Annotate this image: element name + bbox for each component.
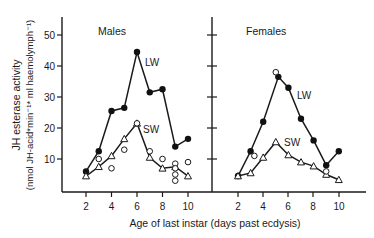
svg-text:10: 10 (44, 154, 56, 165)
svg-text:10: 10 (182, 201, 194, 212)
marker-open-circle (172, 178, 178, 184)
marker-open-circle (109, 166, 115, 172)
annotation-lw-females: LW (297, 90, 312, 101)
marker-filled-circle (185, 136, 191, 142)
svg-text:2: 2 (235, 201, 241, 212)
marker-filled-circle (134, 49, 140, 55)
marker-open-circle (121, 147, 127, 153)
marker-filled-circle (298, 116, 304, 122)
svg-text:20: 20 (44, 123, 56, 134)
marker-filled-circle (147, 89, 153, 95)
marker-open-triangle (272, 138, 279, 144)
series-line-lw (238, 77, 339, 176)
marker-filled-circle (323, 162, 329, 168)
marker-filled-circle (172, 143, 178, 149)
marker-filled-circle (96, 148, 102, 154)
marker-open-circle (147, 148, 153, 154)
marker-open-circle (323, 169, 329, 175)
annotation-lw-males: LW (145, 57, 160, 68)
svg-text:10: 10 (333, 201, 345, 212)
svg-text:40: 40 (44, 61, 56, 72)
marker-filled-circle (260, 119, 266, 125)
marker-filled-circle (108, 108, 114, 114)
svg-text:8: 8 (310, 201, 316, 212)
marker-open-circle (185, 159, 191, 165)
marker-open-circle (160, 156, 166, 162)
y-axis-label: JH esterase activity (nmol JH-acid*min⁻¹… (10, 20, 35, 190)
marker-filled-circle (285, 85, 291, 91)
marker-open-circle (252, 153, 258, 159)
panel-title-females: Females (246, 25, 286, 37)
marker-open-circle (172, 166, 178, 172)
marker-filled-circle (159, 86, 165, 92)
left-y-ticks (57, 35, 62, 159)
axes (62, 17, 366, 192)
left-y-tick-labels: 10 20 30 40 50 (44, 30, 56, 165)
svg-text:50: 50 (44, 30, 56, 41)
marker-open-circle (134, 121, 140, 127)
x-ticks (86, 192, 339, 197)
marker-filled-circle (121, 105, 127, 111)
marker-open-triangle (146, 154, 153, 160)
svg-text:4: 4 (260, 201, 266, 212)
marker-open-circle (273, 69, 279, 75)
marker-filled-circle (336, 148, 342, 154)
svg-text:6: 6 (285, 201, 291, 212)
jh-esterase-chart: JH esterase activity (nmol JH-acid*min⁻¹… (0, 0, 374, 238)
marker-open-circle (172, 172, 178, 178)
marker-open-triangle (298, 159, 305, 165)
marker-open-circle (96, 156, 102, 162)
y-axis-units: (nmol JH-acid*min⁻¹* ml haemolymph⁻¹) (24, 20, 35, 190)
x-axis-title: Age of last instar (days past ecdysis) (130, 217, 301, 229)
svg-text:4: 4 (109, 201, 115, 212)
svg-text:2: 2 (83, 201, 89, 212)
series-line-lw (86, 52, 188, 171)
y-axis-title: JH esterase activity (10, 59, 22, 151)
annotation-sw-females: SW (284, 137, 301, 148)
panel-males (83, 49, 192, 184)
svg-text:8: 8 (160, 201, 166, 212)
marker-filled-circle (310, 137, 316, 143)
annotation-sw-males: SW (143, 124, 160, 135)
x-tick-labels: 2 4 6 8 10 2 4 6 8 10 (83, 201, 345, 212)
svg-text:6: 6 (134, 201, 140, 212)
panel-females (235, 69, 343, 182)
panel-title-males: Males (98, 25, 126, 37)
svg-text:30: 30 (44, 92, 56, 103)
